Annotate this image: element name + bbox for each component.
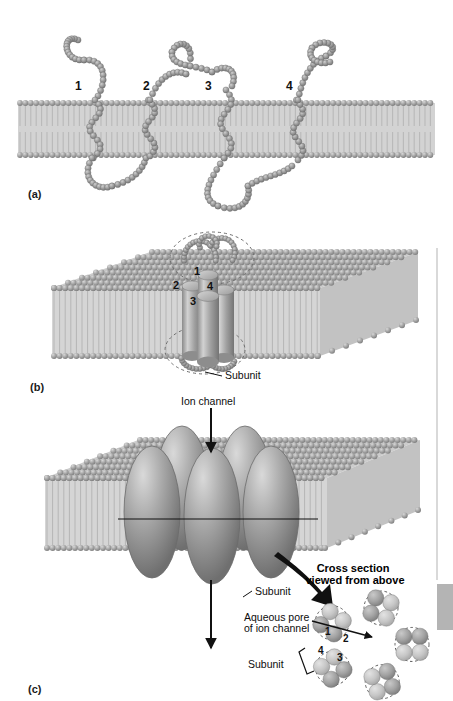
panel-a-group [17, 36, 435, 212]
ion-channel-figure: 1 2 3 4 (a) 1 2 4 3 Subunit (b) Ion chan… [0, 0, 453, 701]
panel-c-group [44, 408, 429, 700]
panel-label-b: (b) [30, 381, 44, 393]
subunit-label-c: Subunit [255, 586, 291, 598]
helix-number-2-a: 2 [143, 79, 150, 93]
inset-helix-number-3: 3 [337, 652, 343, 663]
cross-section-label-line1: Cross section [293, 562, 413, 575]
subunit-label-b: Subunit [225, 370, 261, 382]
panel-label-c: (c) [28, 683, 41, 695]
subunit-ellipsoid-front-center [184, 448, 240, 584]
inset-helix-number-4: 4 [318, 645, 324, 656]
membrane-heads-top-a [17, 100, 433, 106]
inset-subunit-label: Subunit [248, 659, 284, 671]
helix-cylinder-3 [197, 291, 219, 368]
subunit-ellipsoid-front-left [124, 446, 180, 578]
panel-label-a: (a) [28, 188, 41, 200]
inset-helix-number-1: 1 [325, 626, 331, 637]
subunit-leader-line-c [243, 591, 252, 597]
inset-subunit-bracket [299, 648, 314, 674]
aqueous-pore-label-line2: of ion channel [244, 623, 309, 635]
subunit-ellipsoid-front-right [243, 446, 299, 578]
helix-number-3-b: 3 [190, 295, 196, 307]
helix-number-1-b: 1 [194, 265, 200, 277]
figure-canvas [0, 0, 453, 701]
panel-b-group [51, 232, 419, 376]
ion-channel-label-c: Ion channel [181, 396, 235, 408]
page-gray-block [437, 584, 453, 630]
helix-number-3-a: 3 [205, 79, 212, 93]
helix-number-2-b: 2 [173, 279, 179, 291]
helix-number-1-a: 1 [75, 79, 82, 93]
inset-helix-number-2: 2 [343, 633, 349, 644]
cross-section-label-line2: viewed from above [285, 574, 425, 587]
helix-number-4-b: 4 [207, 280, 213, 292]
cross-section-inset [313, 590, 429, 700]
helix-number-4-a: 4 [286, 79, 293, 93]
